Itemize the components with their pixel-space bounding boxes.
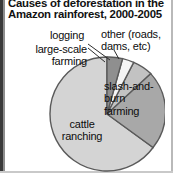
label-cattle-ranching-line-2: ranching bbox=[51, 130, 113, 142]
label-large-scale-farming-line-1: large-scale bbox=[7, 43, 87, 55]
chart-figure: Causes of deforestation in the Amazon ra… bbox=[0, 0, 173, 173]
label-large-scale-farming-line-2: farming bbox=[7, 55, 87, 67]
label-logging-text: logging bbox=[50, 29, 84, 41]
label-large-scale-farming: large-scale farming bbox=[7, 43, 87, 68]
label-slash-and-burn-line-3: farming bbox=[104, 105, 153, 117]
label-other-line-2: dams, etc) bbox=[101, 40, 161, 52]
pie-chart: logging large-scale farming other (roads… bbox=[0, 0, 173, 173]
label-cattle-ranching: cattle ranching bbox=[51, 118, 113, 143]
label-other-line-1: other (roads, bbox=[101, 28, 161, 40]
label-other: other (roads, dams, etc) bbox=[101, 28, 161, 53]
label-logging: logging bbox=[50, 29, 84, 41]
label-cattle-ranching-line-1: cattle bbox=[51, 118, 113, 130]
label-slash-and-burn-line-2: burn bbox=[104, 92, 153, 104]
label-slash-and-burn-farming: slash-and- burn farming bbox=[104, 80, 153, 117]
label-slash-and-burn-line-1: slash-and- bbox=[104, 80, 153, 92]
